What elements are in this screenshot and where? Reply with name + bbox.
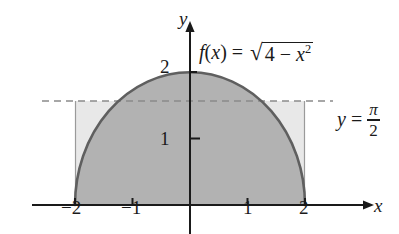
x-tick-label-pos1: 1 [243,198,253,217]
y-axis-label: y [179,9,187,28]
x-tick-label-neg2: −2 [61,198,81,217]
x-axis-label: x [374,196,382,215]
x-tick-label-pos2: 2 [299,198,309,217]
pi-over-2-fraction: π 2 [367,101,380,139]
function-argument: x [211,42,220,62]
pi-over-2-annotation: y = π 2 [337,100,380,138]
radicand-exponent: 2 [305,42,311,56]
function-annotation: f ( x ) = √ 4 − x2 [199,42,313,64]
y-tick-label-2: 2 [160,57,170,76]
radicand: 4 − x2 [262,42,313,64]
function-equals-sign: = [232,42,243,62]
radicand-variable: x [296,43,305,65]
function-close-paren: ) [220,42,227,62]
figure-container: −2 −1 1 2 1 2 x y f ( x ) = √ 4 − x2 y =… [0,0,399,234]
pi-label-y: y [337,109,346,129]
y-tick-label-1: 1 [160,129,170,148]
x-tick-label-neg1: −1 [121,198,141,217]
radicand-lead: 4 − [265,43,296,65]
x-axis-arrowhead [363,200,374,209]
fraction-numerator: π [367,101,380,119]
radical-group: √ 4 − x2 [250,42,313,64]
fraction-denominator: 2 [367,121,380,139]
pi-label-equals-sign: = [351,109,362,129]
